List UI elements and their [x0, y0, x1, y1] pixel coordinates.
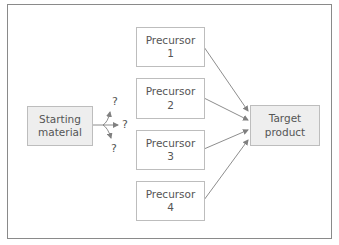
target-product-box: Target product: [250, 105, 320, 146]
precursor-2-label: Precursor: [146, 85, 196, 99]
precursor-1-number: 1: [146, 47, 196, 61]
precursor-3-label: Precursor: [146, 137, 196, 151]
starting-material-line1: Starting: [38, 113, 82, 127]
target-product-line2: product: [265, 126, 305, 140]
unknown-mark-down: ?: [111, 143, 117, 154]
target-product-line1: Target: [265, 112, 305, 126]
precursor-4-label: Precursor: [146, 188, 196, 202]
precursor-2-number: 2: [146, 99, 196, 113]
precursor-4-number: 4: [146, 201, 196, 215]
precursor-1-label: Precursor: [146, 34, 196, 48]
unknown-mark-up: ?: [112, 96, 118, 107]
precursor-1-box: Precursor 1: [136, 27, 205, 67]
precursor-2-box: Precursor 2: [136, 78, 205, 119]
precursor-3-number: 3: [146, 150, 196, 164]
precursor-4-box: Precursor 4: [136, 181, 205, 221]
precursor-3-box: Precursor 3: [136, 130, 205, 170]
starting-material-line2: material: [38, 126, 82, 140]
unknown-mark-middle: ?: [122, 119, 128, 130]
starting-material-box: Starting material: [27, 106, 93, 146]
